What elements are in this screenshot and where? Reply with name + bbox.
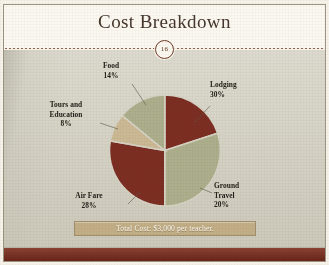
- total-cost-bar: Total Cost: $3,000 per teacher.: [74, 221, 256, 236]
- pie-chart-svg: [4, 50, 325, 247]
- pie-chart: Lodging 30% Ground Travel 20% Air Fare 2…: [4, 50, 325, 247]
- pie-label-lodging-name: Lodging: [210, 80, 237, 89]
- pie-label-food: Food 14%: [84, 61, 138, 80]
- pie-label-food-value: 14%: [84, 71, 138, 81]
- page-title: Cost Breakdown: [4, 11, 325, 33]
- slide-canvas: Cost Breakdown 16: [0, 0, 329, 265]
- pie-label-air-fare: Air Fare 28%: [58, 191, 120, 210]
- page-number-badge: 16: [155, 40, 174, 59]
- pie-label-ground-travel-value: 20%: [214, 200, 276, 210]
- page-number-label: 16: [161, 46, 168, 53]
- pie-label-tours-name2: Education: [30, 110, 102, 120]
- pie-label-tours-name1: Tours and: [50, 100, 82, 109]
- pie-label-ground-travel-name2: Travel: [214, 191, 276, 201]
- pie-label-air-fare-value: 28%: [58, 201, 120, 211]
- pie-label-food-name: Food: [103, 61, 119, 70]
- pie-label-air-fare-name: Air Fare: [75, 191, 102, 200]
- total-cost-label: Total Cost: $3,000 per teacher.: [116, 224, 214, 233]
- chart-panel: Lodging 30% Ground Travel 20% Air Fare 2…: [4, 50, 325, 247]
- pie-label-lodging-value: 30%: [210, 90, 270, 100]
- footer-band: [4, 248, 325, 261]
- pie-label-tours-and-education: Tours and Education 8%: [30, 100, 102, 129]
- pie-label-lodging: Lodging 30%: [210, 80, 270, 99]
- pie-label-tours-value: 8%: [30, 119, 102, 129]
- pie-label-ground-travel-name1: Ground: [214, 181, 239, 190]
- pie-label-ground-travel: Ground Travel 20%: [214, 181, 276, 210]
